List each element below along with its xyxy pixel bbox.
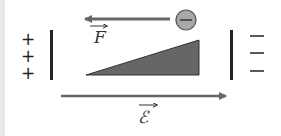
field-label: ℰ (138, 107, 150, 127)
positive-charges: + + + (21, 29, 35, 83)
right-plate (230, 30, 233, 80)
negative-particle (176, 10, 196, 30)
capacitor-diagram: + + + F ℰ (0, 0, 281, 136)
plus-sign: + (21, 63, 35, 83)
negative-charges (250, 36, 264, 71)
left-plate (50, 30, 53, 80)
force-label: F (93, 27, 107, 47)
